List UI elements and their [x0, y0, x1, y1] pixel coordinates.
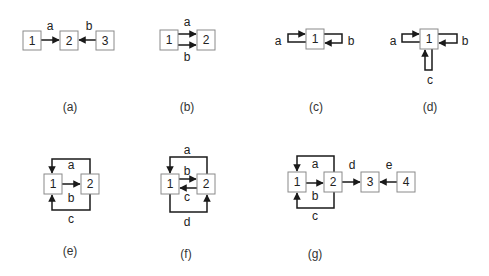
edge-a — [288, 34, 306, 42]
edge-label-a: a — [390, 34, 397, 48]
edge-label-d: d — [349, 158, 356, 172]
svg-text:1: 1 — [166, 33, 173, 47]
edge-label-b: b — [86, 19, 93, 33]
edge-label-c: c — [184, 190, 190, 204]
edge-label-b: b — [312, 189, 319, 203]
caption-g: (g) — [308, 247, 323, 261]
node-1: 1 — [23, 31, 41, 50]
edge-label-a: a — [184, 15, 191, 29]
svg-text:2: 2 — [203, 33, 210, 47]
diagram-figure: 1 2 3 a b (a) 1 2 a b (b) — [0, 0, 489, 276]
edge-label-a: a — [68, 158, 75, 172]
edge-label-b: b — [68, 191, 75, 205]
diagram-c: 1 a b (c) — [275, 29, 355, 114]
svg-text:1: 1 — [29, 34, 36, 48]
node-1: 1 — [161, 174, 179, 194]
edge-label-b: b — [184, 50, 191, 64]
svg-text:1: 1 — [426, 32, 433, 46]
caption-c: (c) — [309, 100, 323, 114]
svg-text:2: 2 — [330, 175, 337, 189]
node-4: 4 — [397, 172, 415, 192]
node-3: 3 — [361, 172, 379, 192]
node-2: 2 — [81, 174, 99, 194]
edge-label-c: c — [68, 212, 74, 226]
svg-text:4: 4 — [403, 175, 410, 189]
edge-label-b: b — [184, 164, 191, 178]
diagram-e: 1 2 a b c (e) — [44, 158, 99, 258]
node-2: 2 — [197, 174, 215, 194]
edge-label-a: a — [275, 34, 282, 48]
node-1: 1 — [306, 29, 324, 49]
diagram-a: 1 2 3 a b (a) — [23, 19, 114, 114]
caption-d: (d) — [423, 100, 438, 114]
node-2: 2 — [60, 31, 78, 50]
diagram-f: 1 2 a b c d (f) — [161, 143, 215, 261]
node-1: 1 — [160, 30, 178, 50]
edge-label-c: c — [427, 73, 433, 87]
node-2: 2 — [324, 172, 342, 192]
edge-label-a: a — [312, 157, 319, 171]
svg-text:1: 1 — [50, 177, 57, 191]
svg-text:3: 3 — [367, 175, 374, 189]
diagram-d: 1 a b c (d) — [390, 29, 469, 114]
caption-b: (b) — [180, 100, 195, 114]
edge-a — [402, 34, 420, 42]
node-3: 3 — [96, 31, 114, 50]
node-1: 1 — [44, 174, 62, 194]
edge-label-b: b — [462, 34, 469, 48]
edge-label-d: d — [184, 215, 191, 229]
diagram-b: 1 2 a b (b) — [160, 15, 215, 114]
node-1: 1 — [420, 29, 438, 49]
svg-text:2: 2 — [66, 34, 73, 48]
edge-label-e: e — [386, 158, 393, 172]
svg-text:2: 2 — [203, 177, 210, 191]
svg-text:1: 1 — [312, 32, 319, 46]
edge-label-b: b — [348, 34, 355, 48]
edge-label-a: a — [184, 143, 191, 157]
caption-a: (a) — [63, 100, 78, 114]
caption-e: (e) — [63, 244, 78, 258]
caption-f: (f) — [180, 247, 191, 261]
edge-label-c: c — [312, 209, 318, 223]
node-1: 1 — [288, 172, 306, 192]
edge-b — [324, 34, 342, 43]
svg-text:3: 3 — [102, 34, 109, 48]
svg-text:1: 1 — [167, 177, 174, 191]
edge-b — [438, 34, 457, 43]
edge-label-a: a — [47, 19, 54, 33]
svg-text:2: 2 — [87, 177, 94, 191]
svg-text:1: 1 — [294, 175, 301, 189]
edge-c — [425, 49, 432, 70]
diagram-g: 1 2 3 4 a b c d e (g) — [288, 156, 415, 261]
node-2: 2 — [197, 30, 215, 50]
